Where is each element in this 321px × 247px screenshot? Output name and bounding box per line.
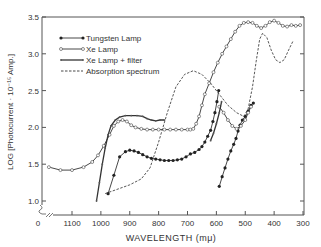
- x-tick-label: 300: [296, 219, 310, 228]
- y-tick-label: 3.5: [28, 13, 40, 22]
- x-tick-label: 1100: [63, 219, 81, 228]
- y-axis-label: LOG [Photocurrent · 10⁻¹⁵ Amp.]: [6, 54, 15, 170]
- legend-item: Xe Lamp: [60, 45, 119, 54]
- x-tick-label: 900: [123, 219, 137, 228]
- series-xe-lamp-filter: [96, 101, 223, 202]
- legend-label: Xe Lamp: [86, 45, 119, 54]
- y-tick-label: 1.0: [28, 197, 40, 206]
- y-tick-label: 3.0: [28, 50, 40, 59]
- y-tick-label: 2.0: [28, 123, 40, 132]
- legend-label: Tungsten Lamp: [86, 34, 142, 43]
- y-tick-label: 1.5: [28, 160, 40, 169]
- x-tick-label: 500: [239, 219, 253, 228]
- axes: 1.01.52.02.53.03.50110010009008007006005…: [28, 13, 310, 228]
- legend-item: Xe Lamp + filter: [60, 56, 142, 65]
- legend-item: Absorption spectrum: [61, 67, 160, 76]
- series-tungsten-lamp: [106, 89, 254, 195]
- x-tick-label: 800: [152, 219, 166, 228]
- x-tick-label: 0: [36, 219, 41, 228]
- legend-item: Tungsten Lamp: [59, 34, 141, 43]
- x-tick-label: 700: [181, 219, 195, 228]
- x-axis-label: WAVELENGTH (mμ): [126, 233, 217, 243]
- legend-label: Xe Lamp + filter: [86, 56, 143, 65]
- legend-label: Absorption spectrum: [86, 67, 160, 76]
- x-tick-label: 400: [267, 219, 281, 228]
- chart-figure: 1.01.52.02.53.03.50110010009008007006005…: [0, 0, 321, 247]
- legend: Tungsten LampXe LampXe Lamp + filterAbso…: [59, 34, 159, 76]
- x-tick-label: 600: [210, 219, 224, 228]
- x-tick-label: 1000: [92, 219, 110, 228]
- y-tick-label: 2.5: [28, 87, 40, 96]
